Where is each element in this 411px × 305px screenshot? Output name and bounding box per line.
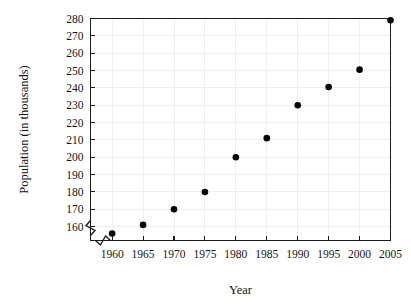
x-axis-title: Year (229, 283, 253, 297)
xtick-label: 1970 (163, 248, 186, 260)
data-point[interactable] (171, 206, 178, 213)
ytick-label: 200 (66, 151, 84, 163)
xtick-label: 1965 (132, 248, 155, 260)
chart-canvas: 1601701801902002102202302402502602702801… (0, 0, 411, 305)
xtick-label: 2000 (348, 248, 371, 260)
data-point[interactable] (109, 230, 116, 237)
xtick-label: 1985 (255, 248, 278, 260)
ytick-label: 170 (66, 203, 84, 215)
ytick-label: 190 (66, 169, 84, 181)
plot-border (91, 19, 391, 241)
xtick-label: 1975 (193, 248, 216, 260)
ytick-label: 220 (66, 117, 84, 129)
tick-labels: 1601701801902002102202302402502602702801… (66, 13, 402, 260)
plot-frame (91, 19, 391, 241)
ytick-label: 230 (66, 99, 84, 111)
ytick-label: 250 (66, 65, 84, 77)
data-point[interactable] (233, 154, 240, 161)
data-point[interactable] (202, 189, 209, 196)
ytick-label: 280 (66, 13, 84, 25)
xtick-label: 2005 (379, 248, 402, 260)
ytick-label: 180 (66, 186, 84, 198)
data-point[interactable] (294, 102, 301, 109)
data-point[interactable] (387, 17, 394, 24)
xtick-label: 1960 (101, 248, 124, 260)
data-points (109, 17, 394, 237)
ytick-label: 260 (66, 47, 84, 59)
xtick-label: 1995 (317, 248, 340, 260)
axis-break (86, 221, 111, 246)
data-point[interactable] (140, 222, 147, 229)
y-axis-title-group: Population (in thousands) (17, 65, 31, 193)
ytick-label: 270 (66, 30, 84, 42)
scatter-chart: 1601701801902002102202302402502602702801… (0, 0, 411, 305)
data-point[interactable] (356, 66, 363, 73)
ytick-label: 210 (66, 134, 84, 146)
data-point[interactable] (325, 84, 332, 91)
y-axis-title: Population (in thousands) (17, 65, 31, 193)
tick-marks (91, 19, 391, 241)
data-point[interactable] (263, 135, 270, 142)
xtick-label: 1980 (224, 248, 247, 260)
ytick-label: 160 (66, 221, 84, 233)
ytick-label: 240 (66, 82, 84, 94)
xtick-label: 1990 (286, 248, 309, 260)
gridlines (91, 19, 391, 241)
